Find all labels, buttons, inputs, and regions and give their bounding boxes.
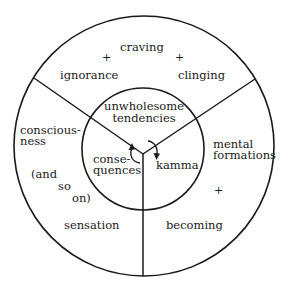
label-consequences-2: quences <box>93 164 141 176</box>
plus-sign: + <box>175 52 184 64</box>
label-craving: craving <box>120 41 164 53</box>
label-sensation: sensation <box>64 219 120 231</box>
label-consciousness-2: ness <box>20 135 46 147</box>
label-formations: formations <box>213 149 276 161</box>
label-and: (and <box>31 168 57 180</box>
label-kamma: kamma <box>156 159 199 171</box>
plus-sign: + <box>102 52 111 64</box>
label-tendencies: tendencies <box>97 112 191 124</box>
label-clinging: clinging <box>178 69 225 81</box>
label-so: so <box>58 180 71 192</box>
label-on: on) <box>72 192 91 204</box>
label-becoming: becoming <box>166 219 223 231</box>
plus-sign: + <box>214 185 223 197</box>
label-ignorance: ignorance <box>60 69 118 81</box>
